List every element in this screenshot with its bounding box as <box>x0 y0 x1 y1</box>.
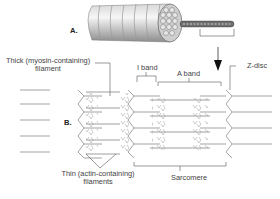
panel-b-label: B. <box>64 119 72 127</box>
thick-filament-label-line2: filament <box>2 65 94 73</box>
thin-filaments-label: Thin (actin-containing) filaments <box>58 170 138 186</box>
thick-filament-label: Thick (myosin-containing) filament <box>2 57 94 73</box>
sarcomere-label: Sarcomere <box>171 174 207 182</box>
panel-a-label: A. <box>70 27 78 35</box>
sarcomere-schematic <box>20 90 272 158</box>
z-disc-label: Z-disc <box>247 62 267 70</box>
muscle-diagram <box>0 0 280 199</box>
a-band-label: A band <box>177 70 200 78</box>
i-band-label: I band <box>137 64 158 72</box>
arrow-down-icon <box>214 47 222 71</box>
thin-filaments-label-line2: filaments <box>58 178 138 186</box>
muscle-fiber-cylinder <box>88 4 234 42</box>
